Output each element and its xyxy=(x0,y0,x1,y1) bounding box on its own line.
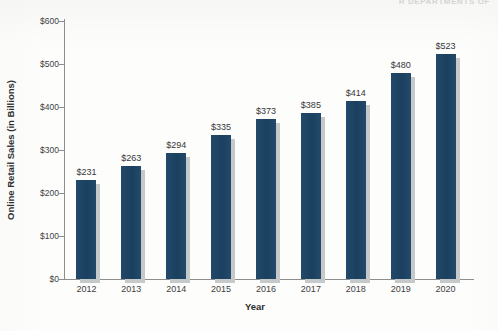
y-axis-tick-label: $0 xyxy=(50,274,59,284)
x-axis-title: Year xyxy=(245,301,265,312)
bar-fill xyxy=(436,54,456,279)
bar[interactable]: $373 xyxy=(256,119,276,279)
bar[interactable]: $523 xyxy=(436,54,456,279)
bar[interactable]: $231 xyxy=(76,180,96,279)
y-axis-tick-mark xyxy=(59,107,64,108)
bar-fill xyxy=(346,101,366,279)
bar-fill xyxy=(391,73,411,279)
y-axis-tick-mark xyxy=(59,150,64,151)
x-axis-tick-label: 2020 xyxy=(436,284,456,294)
x-axis-tick-label: 2014 xyxy=(166,284,186,294)
bar-value-label: $294 xyxy=(166,140,186,150)
bar[interactable]: $263 xyxy=(121,166,141,279)
bar-fill xyxy=(211,135,231,279)
bar-value-label: $263 xyxy=(121,153,141,163)
bar-value-label: $523 xyxy=(436,41,456,51)
y-axis-tick-label: $200 xyxy=(40,188,59,198)
x-axis-tick-label: 2012 xyxy=(76,284,96,294)
x-axis-tick-label: 2013 xyxy=(121,284,141,294)
y-axis-tick-label: $400 xyxy=(40,102,59,112)
bar[interactable]: $335 xyxy=(211,135,231,279)
bar-value-label: $414 xyxy=(346,88,366,98)
bar-fill xyxy=(76,180,96,279)
y-axis-tick-mark xyxy=(59,64,64,65)
y-axis-tick-mark xyxy=(59,279,64,280)
bar-value-label: $480 xyxy=(391,60,411,70)
bar-value-label: $231 xyxy=(76,167,96,177)
y-axis-tick-label: $500 xyxy=(40,59,59,69)
bar[interactable]: $414 xyxy=(346,101,366,279)
plot-area: $0$100$200$300$400$500$600$231$263$294$3… xyxy=(64,21,468,279)
chart-page: R DEPARTMENTS OF $0$100$200$300$400$500$… xyxy=(0,0,498,331)
y-axis-title: Online Retail Sales (in Billions) xyxy=(5,80,16,220)
x-axis-tick-label: 2016 xyxy=(256,284,276,294)
x-axis-tick-label: 2017 xyxy=(301,284,321,294)
bar-fill xyxy=(166,153,186,279)
bar-value-label: $385 xyxy=(301,100,321,110)
x-axis-tick-label: 2019 xyxy=(391,284,411,294)
bar[interactable]: $480 xyxy=(391,73,411,279)
y-axis-tick-mark xyxy=(59,193,64,194)
bar[interactable]: $294 xyxy=(166,153,186,279)
y-axis-tick-label: $600 xyxy=(40,16,59,26)
bar-fill xyxy=(121,166,141,279)
bar[interactable]: $385 xyxy=(301,113,321,279)
bar-value-label: $373 xyxy=(256,106,276,116)
y-axis-tick-label: $300 xyxy=(40,145,59,155)
y-axis-tick-label: $100 xyxy=(40,231,59,241)
bar-value-label: $335 xyxy=(211,122,231,132)
x-axis-tick-label: 2018 xyxy=(346,284,366,294)
bar-fill xyxy=(256,119,276,279)
page-header-fragment: R DEPARTMENTS OF xyxy=(399,0,490,6)
bar-fill xyxy=(301,113,321,279)
x-axis-tick-label: 2015 xyxy=(211,284,231,294)
y-axis-tick-mark xyxy=(59,21,64,22)
y-axis-tick-mark xyxy=(59,236,64,237)
